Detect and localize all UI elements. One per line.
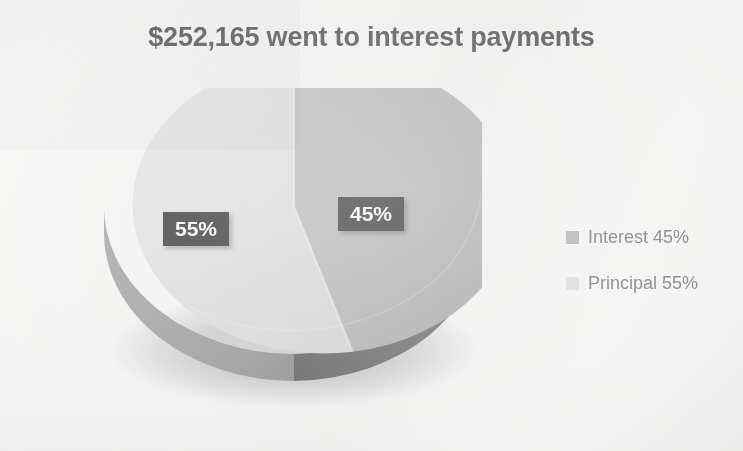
legend-item-principal: Principal 55% [566, 268, 698, 298]
legend-label-interest: Interest 45% [588, 227, 689, 248]
chart-title: $252,165 went to interest payments [0, 22, 743, 53]
legend-item-interest: Interest 45% [566, 222, 698, 252]
data-label-interest: 45% [338, 197, 404, 231]
chart-legend: Interest 45% Principal 55% [566, 222, 698, 314]
legend-swatch-principal-icon [566, 277, 579, 290]
data-label-principal: 55% [163, 212, 229, 246]
pie-svg [98, 88, 482, 408]
legend-label-principal: Principal 55% [588, 273, 698, 294]
pie-chart [98, 88, 482, 408]
legend-swatch-interest-icon [566, 231, 579, 244]
pie-chart-image: $252,165 went to interest payments [0, 0, 743, 451]
